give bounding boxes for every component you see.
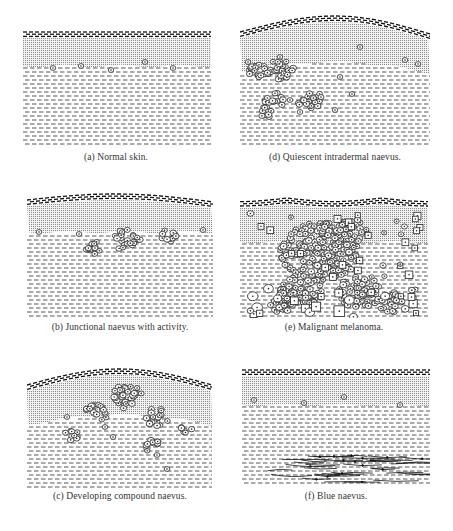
panel-f — [242, 367, 430, 487]
caption-e: (e) Malignant melanoma. — [285, 322, 384, 332]
dermis-layer — [242, 407, 430, 483]
skin-section-illustration — [240, 192, 428, 318]
skin-section-illustration — [23, 28, 211, 148]
epidermis-layer — [242, 376, 430, 406]
skin-section-illustration — [27, 367, 212, 490]
stratum-corneum — [23, 32, 211, 36]
panel-b — [27, 192, 213, 317]
stratum-corneum — [242, 370, 430, 374]
caption-d: (d) Quiescent intradermal naevus. — [269, 152, 401, 162]
panel-d — [240, 12, 430, 148]
panel-e — [240, 192, 428, 318]
skin-section-illustration — [242, 367, 430, 487]
skin-section-illustration — [27, 192, 213, 317]
epidermis-layer — [23, 38, 211, 67]
caption-a: (a) Normal skin. — [84, 152, 148, 162]
caption-f: (f) Blue naevus. — [305, 491, 368, 501]
epidermis-layer — [240, 22, 430, 74]
dermis-layer — [23, 68, 211, 144]
caption-c: (c) Developing compound naevus. — [53, 491, 187, 501]
panel-c — [27, 367, 212, 490]
skin-section-illustration — [240, 12, 430, 148]
stratum-corneum — [240, 198, 428, 206]
caption-b: (b) Junctional naevus with activity. — [52, 322, 189, 332]
panel-a — [23, 28, 211, 148]
